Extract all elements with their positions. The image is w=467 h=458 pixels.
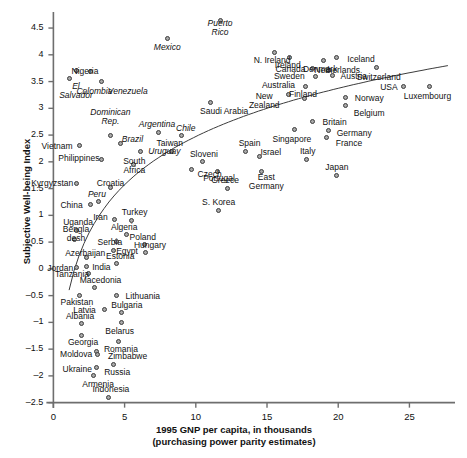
data-point-label-line: Philippines bbox=[58, 154, 99, 163]
data-point-label-line: Britain bbox=[323, 118, 347, 127]
data-point-label-line: China bbox=[60, 201, 82, 210]
data-point-label-line: Israel bbox=[260, 148, 281, 157]
data-point-label-line: Macedonia bbox=[80, 276, 122, 285]
data-point-label-line: Russia bbox=[104, 368, 130, 377]
data-point-label-line: Rep. bbox=[90, 117, 130, 126]
data-point-label-line: Singapore bbox=[273, 135, 312, 144]
data-point-label: France bbox=[336, 139, 362, 148]
data-point-label: Luxembourg bbox=[404, 92, 451, 101]
data-point-label: Sloveni bbox=[190, 150, 218, 159]
data-point-label-line: Hungary bbox=[134, 241, 166, 250]
data-point-label: Sweden bbox=[274, 72, 305, 81]
x-tick-label: 10 bbox=[183, 411, 209, 422]
data-point[interactable] bbox=[99, 157, 104, 162]
data-point-label-line: Africa bbox=[123, 166, 145, 175]
data-point[interactable] bbox=[124, 232, 129, 237]
data-point[interactable] bbox=[225, 186, 230, 191]
data-point-label-line: Albania bbox=[66, 312, 94, 321]
data-point-label-line: Germany bbox=[337, 129, 372, 138]
data-point-label: Greece bbox=[211, 176, 239, 185]
data-point-label-line: Finland bbox=[289, 90, 317, 99]
data-point[interactable] bbox=[272, 50, 277, 55]
data-point-label-line: Peru bbox=[88, 190, 106, 199]
data-point-label-line: Estonia bbox=[106, 252, 134, 261]
data-point-label-line: Belarus bbox=[105, 327, 134, 336]
data-point-label: Vietnam bbox=[42, 142, 73, 151]
data-point-label-line: France bbox=[336, 139, 362, 148]
data-point-label: Iceland bbox=[347, 55, 374, 64]
data-point-label: Macedonia bbox=[80, 276, 122, 285]
x-tick-label: 15 bbox=[254, 411, 280, 422]
data-point[interactable] bbox=[111, 362, 116, 367]
data-point-label: PuertoRico bbox=[208, 19, 233, 37]
data-point-label-line: Norway bbox=[355, 94, 384, 103]
data-point-label: Italy bbox=[300, 147, 316, 156]
data-point-label: Chile bbox=[176, 124, 195, 133]
data-point-label: Britain bbox=[323, 118, 347, 127]
data-point[interactable] bbox=[108, 133, 113, 138]
x-axis-label: 1995 GNP per capita, in thousands (purch… bbox=[64, 424, 404, 448]
data-point[interactable] bbox=[292, 127, 297, 132]
data-point[interactable] bbox=[216, 208, 221, 213]
data-point-label-line: Zealand bbox=[249, 101, 280, 110]
data-point[interactable] bbox=[243, 149, 248, 154]
data-point-label: Azerbaijan bbox=[65, 249, 105, 258]
data-point-label: Belarus bbox=[105, 327, 134, 336]
data-point-label: Spain bbox=[239, 139, 261, 148]
data-point-label: Algeria bbox=[111, 223, 137, 232]
data-point-label: Taiwan bbox=[157, 139, 183, 148]
data-point-label-line: Belgium bbox=[354, 109, 385, 118]
data-point-label: Moldova bbox=[60, 350, 92, 359]
data-point-label: Hungary bbox=[134, 241, 166, 250]
data-point-label-line: Uruguay bbox=[148, 147, 180, 156]
data-point[interactable] bbox=[343, 95, 348, 100]
x-tick-label: 20 bbox=[325, 411, 351, 422]
y-tick-label: –2.5 bbox=[17, 397, 43, 407]
data-point-label: Bulgaria bbox=[111, 301, 142, 310]
y-tick-label: 0.5 bbox=[17, 236, 43, 246]
data-point-label: Mexico bbox=[154, 43, 181, 52]
data-point[interactable] bbox=[74, 181, 79, 186]
data-point[interactable] bbox=[343, 103, 348, 108]
data-point[interactable] bbox=[95, 352, 100, 357]
data-point-label: Norway bbox=[355, 94, 384, 103]
data-point-label: Saudi Arabia bbox=[200, 107, 248, 116]
data-point[interactable] bbox=[84, 264, 89, 269]
data-point[interactable] bbox=[102, 307, 107, 312]
data-point-label-line: Indonesia bbox=[92, 385, 129, 394]
data-point-label-line: Azerbaijan bbox=[65, 249, 105, 258]
data-point-label: Austria bbox=[341, 72, 367, 81]
data-point-label-line: India bbox=[92, 263, 110, 272]
data-point-label: Argentina bbox=[139, 120, 175, 129]
y-tick-label: 0 bbox=[17, 263, 43, 273]
y-tick-label: 2 bbox=[17, 156, 43, 166]
data-point[interactable] bbox=[114, 261, 119, 266]
data-point-label-line: Argentina bbox=[139, 120, 175, 129]
x-axis-label-line1: 1995 GNP per capita, in thousands bbox=[64, 424, 404, 436]
data-point-label: Nigeria bbox=[72, 67, 99, 76]
data-point[interactable] bbox=[138, 149, 143, 154]
data-point-label: Georgia bbox=[68, 338, 98, 347]
data-point[interactable] bbox=[114, 293, 119, 298]
data-point-label: Venezuela bbox=[108, 87, 148, 96]
data-point-label-line: desh bbox=[63, 234, 89, 243]
x-tick-label: 25 bbox=[396, 411, 422, 422]
data-point[interactable] bbox=[77, 143, 82, 148]
data-point-label: Zimbabwe bbox=[108, 352, 147, 361]
y-tick-label: 3.5 bbox=[17, 76, 43, 86]
data-point-label: Japan bbox=[325, 163, 348, 172]
data-point[interactable] bbox=[179, 133, 184, 138]
data-point-label-line: Brazil bbox=[122, 135, 143, 144]
data-point-label-line: Saudi Arabia bbox=[200, 107, 248, 116]
data-point[interactable] bbox=[334, 173, 339, 178]
y-tick-label: 4.5 bbox=[17, 22, 43, 32]
figure-container: Subjective Well-being Index 1995 GNP per… bbox=[0, 0, 467, 458]
data-point-label: India bbox=[92, 263, 110, 272]
data-point-label: EastGermany bbox=[249, 173, 284, 191]
data-point-label: DominicanRep. bbox=[90, 108, 130, 126]
y-tick-label: 4 bbox=[17, 49, 43, 59]
x-tick-label: 5 bbox=[112, 411, 138, 422]
y-tick-label: –2 bbox=[17, 370, 43, 380]
data-point-label-line: Mexico bbox=[154, 43, 181, 52]
data-point-label-line: Nigeria bbox=[72, 67, 99, 76]
